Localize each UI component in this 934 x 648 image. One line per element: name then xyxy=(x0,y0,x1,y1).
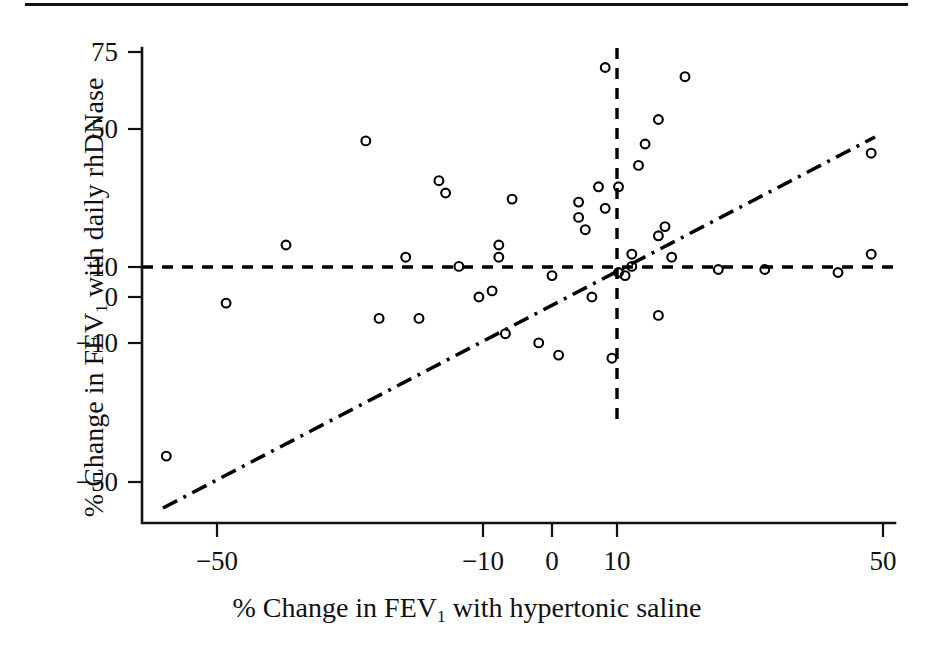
data-point xyxy=(162,452,171,461)
x-tick-label-neg10: −10 xyxy=(462,548,504,575)
data-point xyxy=(508,195,517,204)
x-tick-label-50: 50 xyxy=(870,548,897,575)
data-point xyxy=(594,182,603,191)
data-point xyxy=(574,213,583,222)
data-point xyxy=(714,265,723,274)
regression-line xyxy=(163,137,875,508)
data-point xyxy=(661,222,670,231)
x-tick-label-0: 0 xyxy=(545,548,559,575)
data-point xyxy=(501,329,510,338)
data-point xyxy=(548,271,557,280)
data-point xyxy=(282,241,291,250)
x-axis-title-pre: % Change in FEV xyxy=(232,592,437,623)
data-point xyxy=(494,253,503,262)
data-point xyxy=(867,250,876,259)
data-point xyxy=(588,293,597,302)
data-point xyxy=(667,253,676,262)
y-axis-title-pre: % Change in FEV xyxy=(78,313,109,518)
data-point xyxy=(534,339,543,348)
data-point xyxy=(634,161,643,170)
data-point xyxy=(654,231,663,240)
data-point xyxy=(627,250,636,259)
y-axis-title: % Change in FEV1 with daily rhDNase xyxy=(78,62,113,532)
x-tick-label-10: 10 xyxy=(604,548,631,575)
data-point xyxy=(867,149,876,158)
data-point xyxy=(415,314,424,323)
data-point xyxy=(494,241,503,250)
axis-lines xyxy=(142,48,895,523)
data-point xyxy=(488,287,497,296)
data-point xyxy=(475,293,484,302)
data-point xyxy=(574,198,583,207)
data-points-layer xyxy=(162,63,876,460)
data-point xyxy=(654,115,663,124)
data-point xyxy=(834,268,843,277)
data-point xyxy=(455,262,464,271)
data-point xyxy=(435,176,444,185)
x-axis-ticks xyxy=(217,523,883,537)
data-point xyxy=(601,63,610,72)
data-point xyxy=(601,204,610,213)
y-axis-title-post: with daily rhDNase xyxy=(78,78,109,304)
y-axis-title-subscript: 1 xyxy=(92,304,111,313)
x-axis-title: % Change in FEV1 with hypertonic saline xyxy=(0,592,934,627)
data-point xyxy=(361,137,370,146)
data-point xyxy=(681,72,690,81)
data-point xyxy=(554,351,563,360)
y-axis-ticks xyxy=(128,52,142,482)
data-point xyxy=(441,189,450,198)
data-point xyxy=(641,140,650,149)
data-point xyxy=(581,225,590,234)
data-point xyxy=(654,311,663,320)
x-axis-title-post: with hypertonic saline xyxy=(446,592,702,623)
figure-scatter-plot: 75 50 10 0 −10 −50 −50 −10 0 10 50 % Cha… xyxy=(0,0,934,648)
x-tick-label-neg50: −50 xyxy=(196,548,238,575)
data-point xyxy=(401,253,410,262)
x-axis-title-subscript: 1 xyxy=(437,607,446,626)
data-point xyxy=(375,314,384,323)
data-point xyxy=(608,354,617,363)
data-point xyxy=(222,299,231,308)
